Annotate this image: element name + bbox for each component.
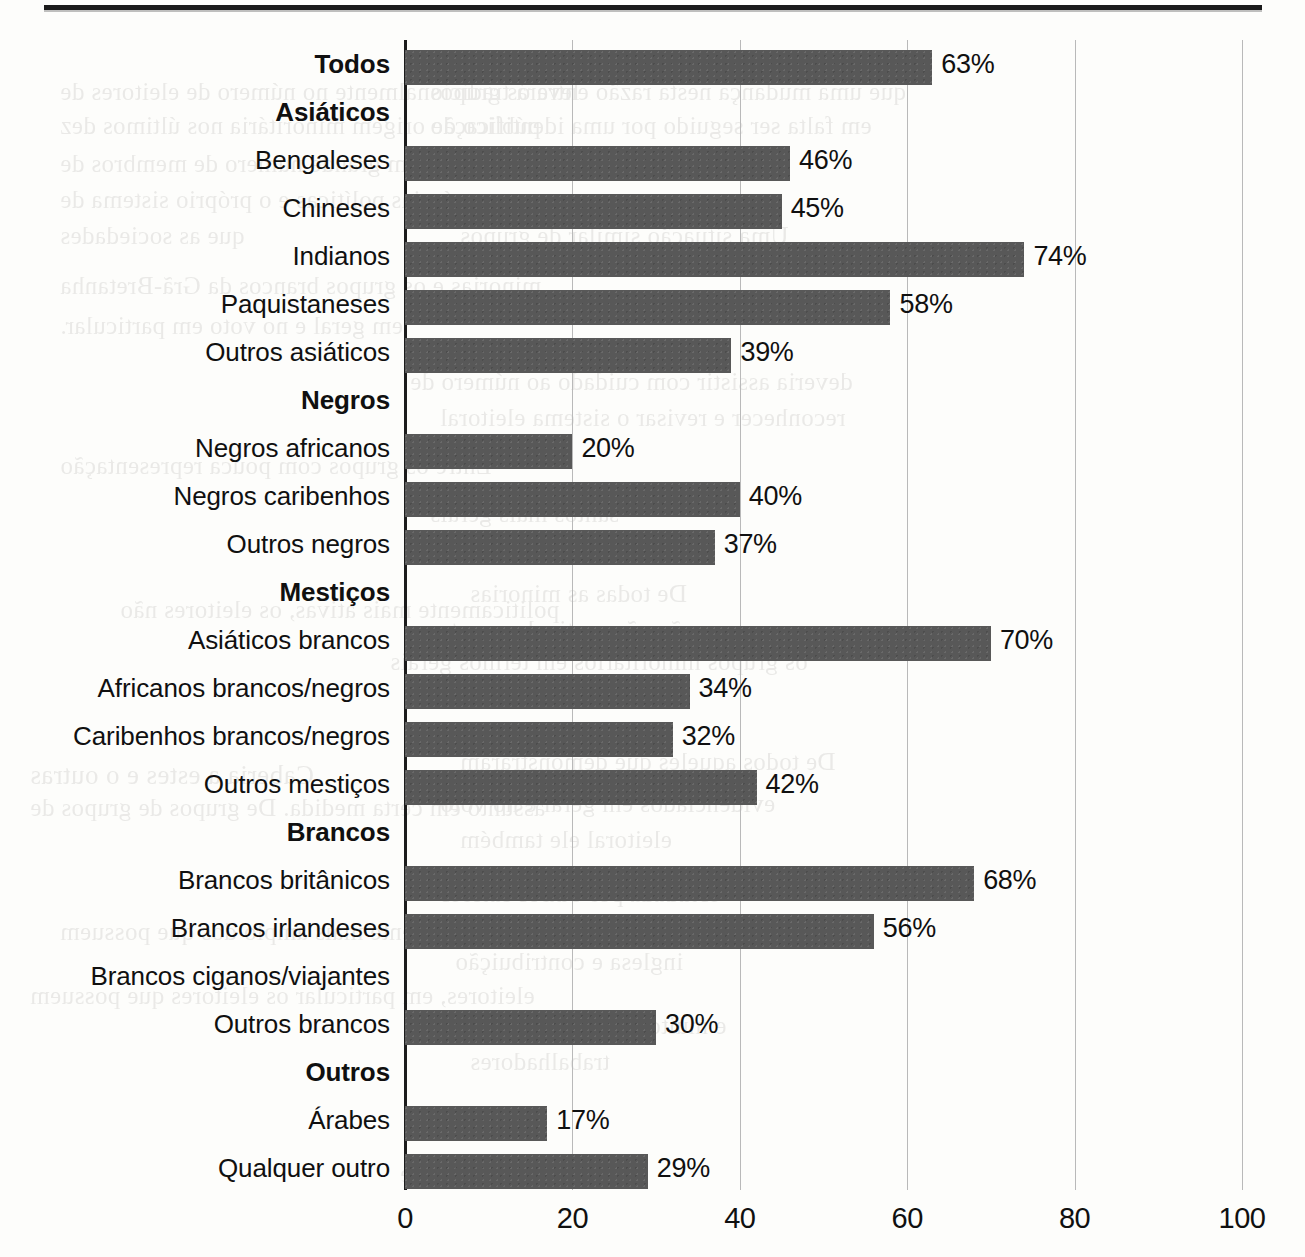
bar-row: Bengaleses46% [0,136,1305,184]
group-header-label: Brancos [0,814,390,850]
category-label: Brancos britânicos [0,862,390,898]
bar-row: Mestiços [0,568,1305,616]
bar [405,530,715,565]
category-label: Brancos irlandeses [0,910,390,946]
bar [405,722,673,757]
bar-value-label: 17% [556,1102,609,1138]
bar-value-label: 74% [1033,238,1086,274]
bar-row: Asiáticos [0,88,1305,136]
bar-row: Outros brancos30% [0,1000,1305,1048]
bar-row: Outros asiáticos39% [0,328,1305,376]
bar [405,482,740,517]
bar-row: Todos63% [0,40,1305,88]
bar-row: Negros africanos20% [0,424,1305,472]
category-label: Caribenhos brancos/negros [0,718,390,754]
category-label: Outros asiáticos [0,334,390,370]
group-header-label: Mestiços [0,574,390,610]
ethnicity-voter-registration-bar-chart: Todos63%AsiáticosBengaleses46%Chineses45… [0,0,1305,1257]
bar [405,1106,547,1141]
category-label: Árabes [0,1102,390,1138]
bar-row: Qualquer outro29% [0,1144,1305,1192]
bar-value-label: 20% [581,430,634,466]
bar-value-label: 46% [799,142,852,178]
page-top-rule [44,5,1262,10]
bar-value-label: 34% [699,670,752,706]
category-label: Outros brancos [0,1006,390,1042]
bar-value-label: 56% [883,910,936,946]
category-label: Africanos brancos/negros [0,670,390,706]
bar-row: Indianos74% [0,232,1305,280]
x-tick-label: 100 [1219,1200,1266,1236]
bar-value-label: 39% [740,334,793,370]
bar-value-label: 63% [941,46,994,82]
category-label: Negros caribenhos [0,478,390,514]
bar-row: Paquistaneses58% [0,280,1305,328]
bar-value-label: 42% [766,766,819,802]
bar-value-label: 32% [682,718,735,754]
x-tick-label: 40 [724,1200,755,1236]
category-label: Qualquer outro [0,1150,390,1186]
bar-row: Asiáticos brancos70% [0,616,1305,664]
bar [405,866,974,901]
bar-row: Brancos [0,808,1305,856]
bar-row: Outros negros37% [0,520,1305,568]
bar-value-label: 37% [724,526,777,562]
group-header-label: Negros [0,382,390,418]
bar [405,1154,648,1189]
bar-row: Outros mestiços42% [0,760,1305,808]
bar-value-label: 29% [657,1150,710,1186]
bar [405,50,932,85]
bar-row: Caribenhos brancos/negros32% [0,712,1305,760]
bar [405,338,731,373]
bar-value-label: 58% [899,286,952,322]
bar-row: Negros [0,376,1305,424]
bar [405,770,757,805]
bar-row: Brancos irlandeses56% [0,904,1305,952]
bar [405,626,991,661]
bar-value-label: 40% [749,478,802,514]
x-tick-label: 60 [892,1200,923,1236]
bar-row: Brancos ciganos/viajantes [0,952,1305,1000]
bar-row: Africanos brancos/negros34% [0,664,1305,712]
bar [405,194,782,229]
bar-value-label: 70% [1000,622,1053,658]
category-label: Brancos ciganos/viajantes [0,958,390,994]
x-tick-label: 80 [1059,1200,1090,1236]
bar [405,146,790,181]
category-label: Chineses [0,190,390,226]
category-label: Todos [0,46,390,82]
bar [405,1010,656,1045]
bar-row: Chineses45% [0,184,1305,232]
bar [405,290,890,325]
x-tick-label: 20 [557,1200,588,1236]
bar [405,434,572,469]
group-header-label: Outros [0,1054,390,1090]
bar [405,674,690,709]
category-label: Indianos [0,238,390,274]
x-tick-label: 0 [397,1200,413,1236]
bar-row: Negros caribenhos40% [0,472,1305,520]
bar [405,914,874,949]
category-label: Outros mestiços [0,766,390,802]
bar-row: Brancos britânicos68% [0,856,1305,904]
bar-row: Outros [0,1048,1305,1096]
category-label: Negros africanos [0,430,390,466]
category-label: Bengaleses [0,142,390,178]
bar-value-label: 68% [983,862,1036,898]
category-label: Outros negros [0,526,390,562]
category-label: Paquistaneses [0,286,390,322]
category-label: Asiáticos brancos [0,622,390,658]
bar-row: Árabes17% [0,1096,1305,1144]
group-header-label: Asiáticos [0,94,390,130]
bar-value-label: 30% [665,1006,718,1042]
bar [405,242,1024,277]
x-axis: 020406080100 [405,1190,1242,1250]
bar-value-label: 45% [791,190,844,226]
